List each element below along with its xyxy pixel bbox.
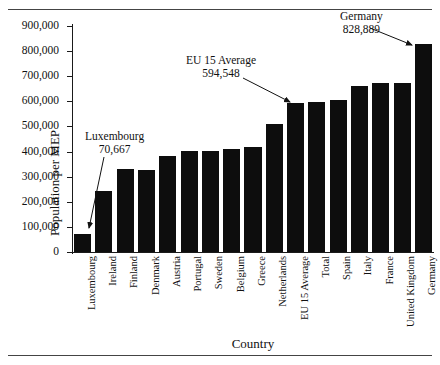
bottom-rule bbox=[8, 355, 432, 356]
y-tick-label: 400,000 bbox=[0, 146, 59, 158]
figure: Population per MEP 0100,000200,000300,00… bbox=[0, 0, 440, 365]
bar-germany bbox=[415, 44, 432, 252]
y-tick-label: 0 bbox=[0, 246, 59, 258]
bar-finland bbox=[117, 169, 134, 252]
bar-united-kingdom bbox=[394, 83, 411, 253]
x-axis-label: Country bbox=[72, 336, 434, 352]
bar-eu-15-average bbox=[287, 103, 304, 252]
x-tick-label: Sweden bbox=[214, 256, 225, 289]
bar-spain bbox=[330, 100, 347, 252]
x-tick-label: Italy bbox=[363, 256, 374, 275]
y-tick-mark bbox=[67, 51, 72, 52]
bar-france bbox=[372, 83, 389, 253]
annotation-eu15-name: EU 15 Average bbox=[186, 54, 256, 66]
y-tick-mark bbox=[67, 152, 72, 153]
bar-netherlands bbox=[266, 124, 283, 252]
x-tick-label: Austria bbox=[172, 256, 183, 287]
y-tick-mark bbox=[67, 101, 72, 102]
x-tick-label: Portugal bbox=[193, 256, 204, 292]
y-tick-label: 600,000 bbox=[0, 96, 59, 108]
x-axis-line bbox=[72, 252, 434, 253]
y-tick-label: 200,000 bbox=[0, 196, 59, 208]
y-tick-label: 900,000 bbox=[0, 20, 59, 32]
x-tick-label: Germany bbox=[427, 256, 438, 295]
y-tick-mark bbox=[67, 177, 72, 178]
bar-greece bbox=[244, 147, 261, 252]
x-tick-label: Spain bbox=[342, 256, 353, 280]
x-tick-label: Finland bbox=[129, 256, 140, 288]
y-tick-mark bbox=[67, 252, 72, 253]
x-tick-label: EU 15 Average bbox=[300, 256, 311, 320]
y-tick-label: 500,000 bbox=[0, 121, 59, 133]
bar-italy bbox=[351, 86, 368, 252]
y-tick-mark bbox=[67, 26, 72, 27]
y-tick-label: 100,000 bbox=[0, 221, 59, 233]
annotation-luxembourg-name: Luxembourg bbox=[85, 130, 144, 142]
y-tick-label: 300,000 bbox=[0, 171, 59, 183]
annotation-eu15: EU 15 Average 594,548 bbox=[186, 54, 256, 80]
y-tick-label: 700,000 bbox=[0, 70, 59, 82]
x-tick-label: France bbox=[385, 256, 396, 285]
bar-sweden bbox=[202, 151, 219, 252]
y-tick-mark bbox=[67, 202, 72, 203]
annotation-luxembourg: Luxembourg 70,667 bbox=[85, 130, 144, 156]
y-tick-mark bbox=[67, 126, 72, 127]
x-tick-label: Netherlands bbox=[278, 256, 289, 307]
x-tick-label: United Kingdom bbox=[406, 256, 417, 327]
bar-denmark bbox=[138, 170, 155, 252]
y-tick-label: 800,000 bbox=[0, 45, 59, 57]
annotation-germany: Germany 828,889 bbox=[340, 10, 383, 36]
bar-belgium bbox=[223, 149, 240, 252]
annotation-luxembourg-value: 70,667 bbox=[85, 143, 144, 156]
x-tick-label: Belgium bbox=[236, 256, 247, 292]
x-tick-label: Greece bbox=[257, 256, 268, 286]
annotation-germany-name: Germany bbox=[340, 10, 383, 22]
bar-austria bbox=[159, 156, 176, 252]
bar-ireland bbox=[95, 191, 112, 252]
x-tick-label: Luxembourg bbox=[87, 256, 98, 310]
bar-luxembourg bbox=[74, 234, 91, 252]
annotation-eu15-value: 594,548 bbox=[186, 67, 256, 80]
bar-portugal bbox=[181, 151, 198, 252]
y-tick-mark bbox=[67, 76, 72, 77]
bar-total bbox=[308, 102, 325, 252]
x-tick-label: Total bbox=[321, 256, 332, 277]
y-tick-mark bbox=[67, 227, 72, 228]
annotation-germany-value: 828,889 bbox=[340, 23, 383, 36]
x-tick-label: Denmark bbox=[151, 256, 162, 295]
x-tick-label: Ireland bbox=[108, 256, 119, 286]
